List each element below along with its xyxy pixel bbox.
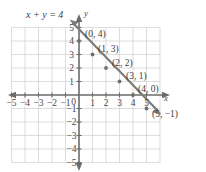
graph-figure: −5 −4 −3 −2 −1 1 2 3 4 5 0 5 4 3 2 1 −1 … [0, 0, 206, 172]
x-tick-label-4: 4 [131, 98, 136, 108]
x-tick-label-neg2: −2 [47, 98, 57, 108]
x-tick-label-neg5: −5 [6, 98, 16, 108]
coordinate-plane: −5 −4 −3 −2 −1 1 2 3 4 5 0 5 4 3 2 1 −1 … [0, 0, 206, 172]
y-tick-label-neg3: −3 [66, 131, 76, 141]
y-tick-label-4: 4 [69, 36, 74, 46]
point-label-4-0: (4, 0) [138, 84, 159, 95]
x-tick-label-neg3: −3 [33, 98, 43, 108]
data-point [104, 66, 108, 70]
y-tick-label-5: 5 [69, 23, 74, 33]
y-tick-label-neg5: −5 [66, 158, 76, 168]
x-tick-label-2: 2 [104, 98, 109, 108]
point-label-0-4: (0, 4) [85, 29, 106, 40]
y-axis-label: y [83, 8, 88, 18]
point-label-3-1: (3, 1) [126, 71, 147, 82]
y-tick-label-3: 3 [69, 50, 74, 60]
data-point [131, 93, 135, 97]
x-tick-label-5: 5 [144, 98, 149, 108]
point-label-5-neg1: (5, −1) [152, 109, 178, 120]
y-tick-label-neg1: −1 [66, 104, 76, 114]
data-point [77, 39, 81, 43]
point-label-2-2: (2, 2) [112, 58, 133, 69]
x-axis-label: x [163, 93, 168, 103]
x-tick-label-3: 3 [117, 98, 122, 108]
equation-label: x + y = 4 [25, 9, 63, 20]
y-tick-label-neg2: −2 [66, 117, 76, 127]
x-tick-label-1: 1 [90, 98, 95, 108]
data-point [118, 80, 122, 84]
y-axis [76, 14, 82, 171]
point-label-1-3: (1, 3) [98, 44, 119, 55]
y-tick-label-2: 2 [69, 63, 74, 73]
x-tick-label-neg4: −4 [20, 98, 30, 108]
y-tick-label-1: 1 [69, 77, 74, 87]
y-tick-label-neg4: −4 [66, 144, 76, 154]
data-point [91, 53, 95, 57]
